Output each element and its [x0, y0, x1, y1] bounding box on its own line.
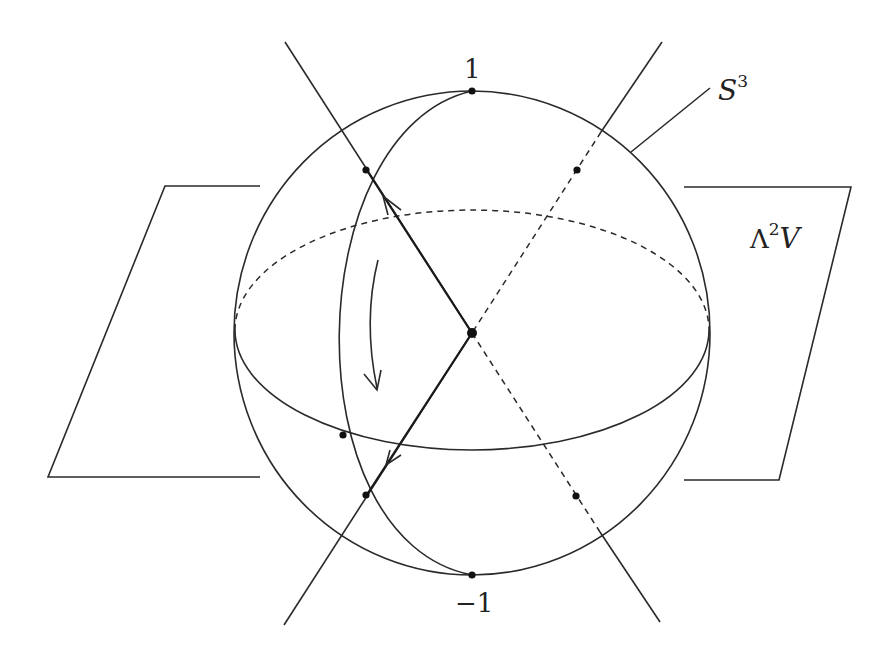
line-b-inner-dashed — [472, 132, 601, 333]
line-b-outer-top — [601, 42, 662, 132]
point-lower-left-intersection — [362, 491, 369, 498]
point-back-upper — [573, 166, 580, 173]
rotation-arrow — [370, 260, 378, 388]
s3-pointer-line — [631, 88, 710, 152]
point-center — [467, 328, 477, 338]
equator-front — [235, 330, 709, 450]
s3-sphere-diagram: 1 −1 S3 Λ2V — [0, 0, 891, 663]
label-bottom-minus1: −1 — [455, 588, 493, 618]
rotation-arrowhead-icon — [364, 370, 381, 390]
plane-left-part — [48, 186, 260, 477]
point-upper-left-intersection — [362, 166, 369, 173]
label-top-1: 1 — [464, 54, 481, 84]
great-circle-meridian — [339, 91, 472, 575]
arrowhead-upper-icon — [383, 196, 401, 215]
point-top-1 — [468, 87, 475, 94]
label-lambda2v: Λ2V — [749, 219, 803, 255]
point-equator-meridian-intersection — [339, 431, 346, 438]
line-a-inner-dashed — [472, 333, 600, 532]
line-a-outer-bottom — [600, 532, 660, 622]
equator-back-dashed — [235, 210, 709, 330]
point-bottom-minus1 — [468, 571, 475, 578]
label-s3: S3 — [718, 71, 748, 107]
vector-lower — [368, 333, 472, 493]
point-back-lower — [572, 492, 579, 499]
